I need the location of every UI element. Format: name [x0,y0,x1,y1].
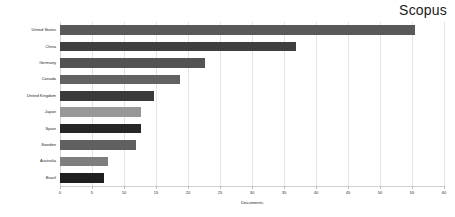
tick-mark-45 [348,186,349,189]
x-axis-tick-marks [60,186,444,189]
x-tick-label-5: 5 [91,190,93,195]
x-tick-label-55: 55 [410,190,415,195]
tick-mark-15 [156,186,157,189]
chart-title: Scopus [399,2,447,18]
tick-mark-40 [316,186,317,189]
x-tick-label-10: 10 [122,190,127,195]
bar-row [60,170,444,186]
tick-mark-35 [284,186,285,189]
category-label-united-kingdom: United Kingdom [0,94,56,98]
bar-row [60,38,444,54]
tick-mark-0 [60,186,61,189]
category-label-japan: Japan [0,110,56,114]
bar-australia[interactable] [60,157,108,167]
bar-row [60,55,444,71]
bar-canada[interactable] [60,75,180,85]
tick-mark-10 [124,186,125,189]
x-tick-label-20: 20 [186,190,191,195]
category-label-spain: Spain [0,127,56,131]
category-label-germany: Germany [0,61,56,65]
bar-japan[interactable] [60,107,141,117]
bar-row [60,153,444,169]
bar-united-kingdom[interactable] [60,91,154,101]
tick-mark-20 [188,186,189,189]
bar-row [60,137,444,153]
x-tick-label-45: 45 [346,190,351,195]
x-tick-label-30: 30 [250,190,255,195]
x-tick-label-25: 25 [218,190,223,195]
x-tick-label-60: 60 [442,190,447,195]
x-tick-label-35: 35 [282,190,287,195]
category-label-australia: Australia [0,159,56,163]
bar-row [60,120,444,136]
tick-mark-50 [380,186,381,189]
bar-brazil[interactable] [60,173,104,183]
bar-united-states[interactable] [60,25,415,35]
x-axis-tick-labels: 051015202530354045505560 [60,190,444,198]
bar-germany[interactable] [60,58,205,68]
bar-china[interactable] [60,42,296,52]
scopus-documents-bar-chart: Scopus United StatesChinaGermanyCanadaUn… [0,0,455,217]
category-label-canada: Canada [0,77,56,81]
tick-mark-25 [220,186,221,189]
tick-mark-30 [252,186,253,189]
x-tick-label-50: 50 [378,190,383,195]
bar-sweden[interactable] [60,140,136,150]
plot-area [60,22,444,186]
category-label-united-states: United States [0,28,56,32]
bar-row [60,104,444,120]
category-axis-labels: United StatesChinaGermanyCanadaUnited Ki… [0,22,56,186]
tick-mark-60 [444,186,445,189]
x-axis-title: Documents [60,200,444,205]
tick-mark-5 [92,186,93,189]
x-tick-label-0: 0 [59,190,61,195]
bar-row [60,22,444,38]
category-label-brazil: Brazil [0,176,56,180]
bar-row [60,71,444,87]
x-tick-label-40: 40 [314,190,319,195]
gridline-60 [444,22,445,186]
bar-row [60,88,444,104]
x-tick-label-15: 15 [154,190,159,195]
bar-spain[interactable] [60,124,141,134]
category-label-china: China [0,45,56,49]
tick-mark-55 [412,186,413,189]
bars-layer [60,22,444,186]
category-label-sweden: Sweden [0,143,56,147]
